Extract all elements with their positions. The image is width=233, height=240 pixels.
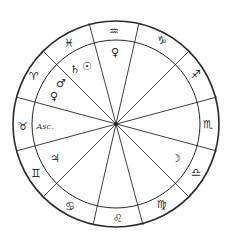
- sign-cancer: ♋: [65, 200, 75, 213]
- planet-mars: ♂: [56, 77, 66, 90]
- sign-capricorn: ♑: [157, 34, 167, 47]
- planet-saturn: ♄: [70, 63, 80, 76]
- ascendant-label: Asc.: [36, 122, 54, 131]
- sign-aries: ♈: [29, 70, 39, 83]
- sign-scorpio: ♏: [203, 118, 213, 131]
- sign-leo: ♌: [113, 212, 123, 225]
- planets: ♀ ♄ ☉ ♂ ♀ ♃ ☽: [50, 46, 181, 165]
- sign-gemini: ♊: [31, 167, 41, 180]
- planet-sun: ☉: [82, 60, 92, 73]
- sign-sagittarius: ♐: [191, 68, 201, 81]
- sign-pisces: ♓: [64, 37, 74, 50]
- planet-venus-aries: ♀: [50, 90, 58, 103]
- planet-venus-aquarius: ♀: [111, 46, 119, 59]
- sign-taurus: ♉: [18, 120, 28, 133]
- horoscope-wheel: ♒ ♑ ♐ ♏ ♎ ♍ ♌ ♋ ♊ ♉ ♈ ♓ ♀ ♄ ☉ ♂ ♀ ♃ ☽ As…: [0, 0, 233, 240]
- center-point: [114, 122, 118, 126]
- sign-libra: ♎: [191, 166, 201, 179]
- planet-moon: ☽: [171, 152, 181, 165]
- sign-aquarius: ♒: [109, 25, 119, 38]
- planet-jupiter: ♃: [50, 152, 60, 165]
- sign-virgo: ♍: [157, 198, 167, 211]
